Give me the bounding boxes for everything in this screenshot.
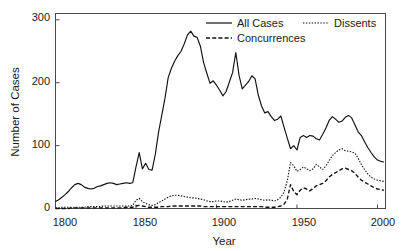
x-axis-tick-labels: 1800 1850 1900 1950 2000 (53, 216, 395, 228)
legend-label-dissents: Dissents (334, 17, 377, 29)
plot-frame (56, 14, 386, 209)
y-tick-label-300: 300 (32, 11, 50, 23)
chart-figure: 300 200 100 0 1800 1850 1900 1950 2000 Y… (0, 0, 404, 251)
legend-label-concurrences: Concurrences (237, 32, 306, 44)
x-tick-label-1900: 1900 (212, 216, 236, 228)
line-chart-svg: 300 200 100 0 1800 1850 1900 1950 2000 Y… (0, 0, 404, 251)
axis-tickmarks (56, 20, 378, 209)
chart-legend: All Cases Dissents Concurrences (206, 17, 377, 44)
y-axis-title: Number of Cases (9, 67, 21, 157)
x-tick-label-1850: 1850 (133, 216, 157, 228)
x-tick-label-2000: 2000 (371, 216, 395, 228)
y-tick-label-200: 200 (32, 75, 50, 87)
x-tick-label-1800: 1800 (53, 216, 77, 228)
x-axis-title: Year (212, 235, 235, 247)
x-tick-label-1950: 1950 (292, 216, 316, 228)
y-tick-label-100: 100 (32, 138, 50, 150)
data-series-group (56, 31, 384, 208)
series-line-all-cases (56, 31, 384, 201)
series-line-concurrences (56, 168, 384, 208)
y-axis-tick-labels: 300 200 100 0 (32, 11, 50, 213)
y-tick-label-0: 0 (44, 201, 50, 213)
series-line-dissents (56, 149, 384, 208)
legend-label-all-cases: All Cases (237, 17, 284, 29)
